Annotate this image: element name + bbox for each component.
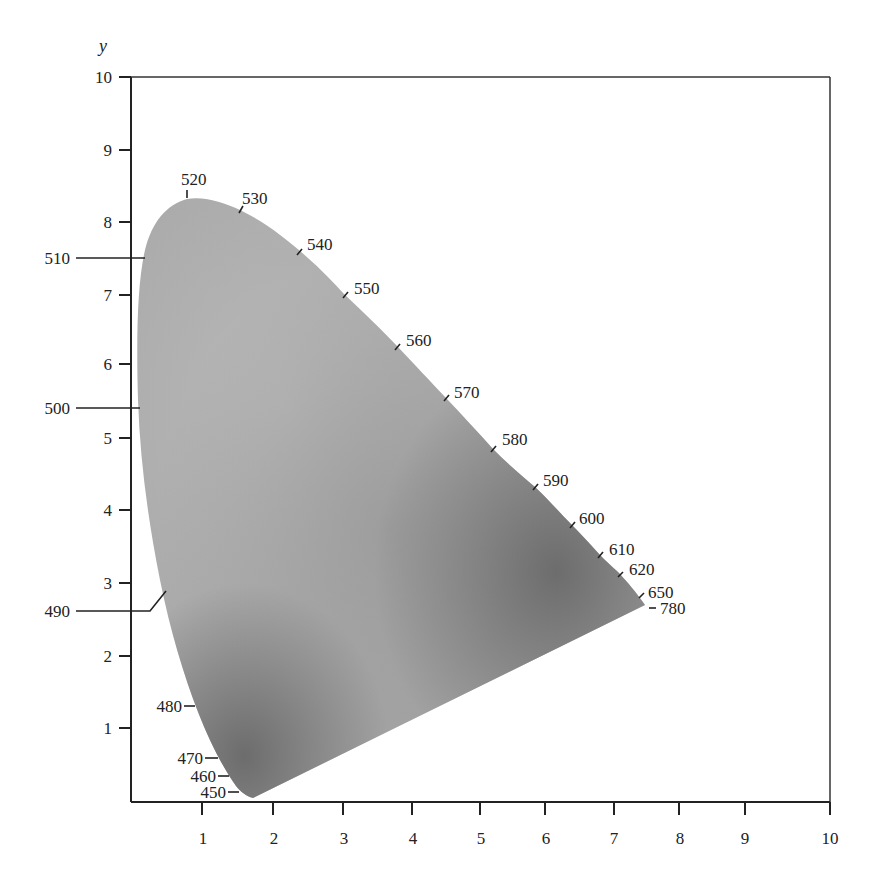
x-tick-8: 8	[676, 829, 685, 848]
y-axis-title: y	[97, 36, 107, 56]
x-tick-5: 5	[477, 829, 486, 848]
label-560: 560	[406, 331, 432, 350]
label-620: 620	[629, 560, 655, 579]
label-520: 520	[181, 170, 207, 189]
label-780: 780	[660, 599, 686, 618]
y-axis	[119, 77, 131, 728]
label-540: 540	[307, 235, 333, 254]
x-tick-labels: 1 2 3 4 5 6 7 8 9 10	[199, 829, 839, 848]
x-tick-10: 10	[822, 829, 839, 848]
y-tick-3: 3	[104, 574, 113, 593]
label-600: 600	[579, 509, 605, 528]
spectral-locus-region	[130, 190, 650, 805]
label-590: 590	[543, 471, 569, 490]
label-470: 470	[178, 749, 204, 768]
x-tick-9: 9	[741, 829, 750, 848]
x-tick-4: 4	[409, 829, 418, 848]
y-tick-2: 2	[104, 647, 113, 666]
y-tick-8: 8	[104, 213, 113, 232]
label-570: 570	[454, 383, 480, 402]
y-tick-4: 4	[104, 501, 113, 520]
label-610: 610	[609, 540, 635, 559]
x-tick-3: 3	[340, 829, 349, 848]
label-510: 510	[45, 249, 71, 268]
y-tick-7: 7	[104, 286, 113, 305]
x-tick-7: 7	[610, 829, 619, 848]
label-500: 500	[45, 399, 71, 418]
label-530: 530	[242, 189, 268, 208]
x-tick-6: 6	[542, 829, 551, 848]
y-tick-10: 10	[95, 68, 112, 87]
label-490: 490	[45, 602, 71, 621]
label-450: 450	[201, 783, 227, 802]
y-tick-labels: 10 9 8 7 6 5 4 3 2 1	[95, 68, 113, 738]
label-580: 580	[502, 430, 528, 449]
y-tick-6: 6	[104, 355, 113, 374]
y-tick-9: 9	[104, 141, 113, 160]
y-tick-5: 5	[104, 429, 113, 448]
x-tick-1: 1	[199, 829, 208, 848]
chromaticity-diagram: 10 9 8 7 6 5 4 3 2 1 y 1 2 3 4 5 6 7 8 9…	[0, 0, 874, 890]
x-tick-2: 2	[270, 829, 279, 848]
x-axis	[202, 802, 830, 815]
label-480: 480	[157, 697, 183, 716]
label-550: 550	[354, 279, 380, 298]
y-tick-1: 1	[104, 719, 113, 738]
